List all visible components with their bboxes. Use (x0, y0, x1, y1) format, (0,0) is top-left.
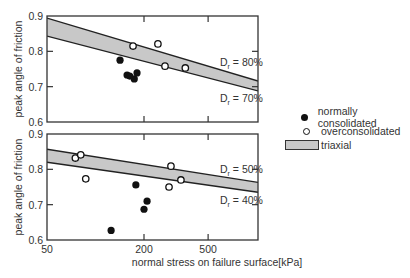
y-axis-label: peak angle of friction (12, 138, 24, 235)
y-tick-label: 0.6 (28, 116, 43, 128)
data-point (155, 41, 161, 47)
legend-label: triaxial (321, 139, 351, 151)
legend-label: overconsolidated (321, 125, 400, 137)
open-circle-icon (303, 128, 310, 135)
data-point (143, 198, 150, 205)
y-axis-label: peak angle of friction (12, 20, 24, 117)
density-annotation: Dr = 70% (220, 92, 263, 106)
data-point (168, 163, 174, 169)
x-tick-label: 200 (135, 243, 153, 255)
plot-panel-bottom: 0.60.70.80.9Dr = 50%Dr = 40%peak angle o… (12, 128, 263, 246)
x-axis-label: normal stress on failure surface[kPa] (132, 256, 302, 268)
legend-item-overconsolidated: overconsolidated (283, 124, 410, 138)
data-point (78, 152, 84, 158)
y-tick-label: 0.8 (28, 45, 43, 57)
data-point (178, 177, 184, 183)
density-annotation: Dr = 50% (220, 163, 263, 177)
data-point (166, 184, 172, 190)
data-point (140, 206, 147, 213)
x-tick-label: 500 (199, 243, 217, 255)
data-point (83, 176, 89, 182)
data-point (162, 63, 168, 69)
series-normally-consolidated (108, 181, 151, 234)
data-point (182, 65, 188, 71)
data-point (132, 181, 139, 188)
data-point (133, 69, 140, 76)
x-tick-label: 50 (41, 243, 53, 255)
data-point (130, 43, 136, 49)
legend-item-normally-consolidated: normally consolidated (283, 110, 410, 124)
band-swatch-icon (285, 140, 319, 150)
axis-labels: 50200500normal stress on failure surface… (41, 243, 302, 268)
triaxial-band (47, 18, 258, 91)
y-tick-label: 0.9 (28, 128, 43, 140)
y-tick-label: 0.9 (28, 10, 43, 22)
y-tick-label: 0.7 (28, 199, 43, 211)
series-normally-consolidated (116, 57, 140, 83)
y-tick-label: 0.8 (28, 163, 43, 175)
density-annotation: Dr = 80% (220, 56, 263, 70)
y-tick-label: 0.7 (28, 81, 43, 93)
plot-panel-top: 0.60.70.80.9Dr = 80%Dr = 70%peak angle o… (12, 10, 263, 128)
density-annotation: Dr = 40% (220, 194, 263, 208)
data-point (116, 57, 123, 64)
data-point (108, 227, 115, 234)
legend: normally consolidated overconsolidated t… (283, 110, 410, 152)
legend-item-triaxial: triaxial (283, 138, 410, 152)
filled-circle-icon (301, 114, 308, 121)
